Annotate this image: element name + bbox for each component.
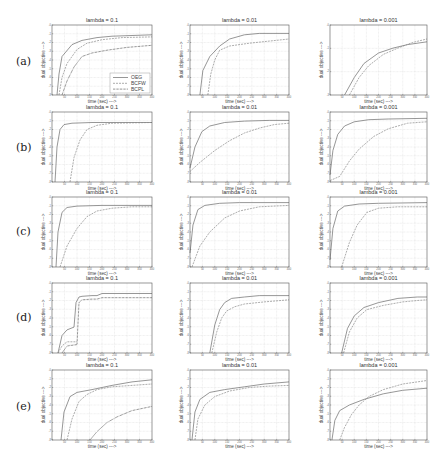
svg-text:100: 100 [75,440,80,444]
svg-text:-1: -1 [49,32,52,36]
svg-text:-8: -8 [327,265,330,269]
svg-text:-8: -8 [187,180,190,184]
svg-text:-8: -8 [327,438,330,442]
svg-text:-0: -0 [187,281,190,285]
svg-text:-3: -3 [187,221,190,225]
svg-text:-5: -5 [49,239,52,243]
chart-panel-c3: lambda = 0.00150100150200250300350400-0-… [318,185,431,279]
svg-text:-2: -2 [49,40,52,44]
svg-text:-2: -2 [327,212,330,216]
svg-text:-5: -5 [187,239,190,243]
svg-text:400: 400 [425,440,430,444]
svg-text:-2: -2 [187,212,190,216]
svg-text:-4: -4 [49,58,52,62]
svg-text:-2: -2 [327,127,330,131]
svg-text:-6: -6 [49,420,52,424]
panel-title: lambda = 0.001 [359,275,397,281]
series-bcfw-line [344,300,427,353]
svg-text:350: 350 [413,440,418,444]
svg-text:50: 50 [63,353,66,357]
svg-text:-8: -8 [187,93,190,97]
svg-text:-1: -1 [327,290,330,294]
svg-text:-0: -0 [187,110,190,114]
svg-text:100: 100 [75,353,80,357]
svg-text:-7: -7 [327,171,330,175]
svg-text:-2: -2 [187,40,190,44]
svg-text:-6: -6 [327,162,330,166]
y-axis-label: dual objective ---> [179,386,184,423]
svg-text:-6: -6 [187,333,190,337]
svg-text:-5: -5 [327,154,330,158]
svg-text:300: 300 [262,353,267,357]
svg-text:-1: -1 [49,290,52,294]
svg-text:-3: -3 [187,49,190,53]
svg-text:-1: -1 [327,46,330,50]
svg-text:300: 300 [262,95,267,99]
svg-text:-3: -3 [49,394,52,398]
svg-text:-0: -0 [49,368,52,372]
svg-text:-3: -3 [187,136,190,140]
svg-text:-4: -4 [327,403,330,407]
svg-text:-8: -8 [327,351,330,355]
svg-text:100: 100 [213,95,218,99]
svg-text:-3: -3 [187,394,190,398]
svg-text:350: 350 [137,353,142,357]
svg-text:-7: -7 [187,256,190,260]
panel-title: lambda = 0.1 [86,104,118,110]
svg-text:-4: -4 [49,230,52,234]
panel-title: lambda = 0.001 [359,189,397,195]
svg-text:-4: -4 [187,316,190,320]
svg-text:100: 100 [352,95,357,99]
svg-text:300: 300 [125,440,130,444]
chart-panel-e3: lambda = 0.00150100150200250300350400-0-… [318,358,431,452]
svg-text:300: 300 [125,95,130,99]
chart-panel-d3: lambda = 0.00150100150200250300350400-0-… [318,271,431,365]
row-label-e: (e) [16,400,31,413]
svg-text:-8: -8 [187,438,190,442]
svg-text:-0: -0 [327,23,330,27]
svg-text:400: 400 [150,353,155,357]
svg-text:-7: -7 [187,342,190,346]
svg-text:-1: -1 [187,32,190,36]
chart-panel-e1: lambda = 0.150100150200250300350400-0-1-… [40,358,156,452]
legend-label-bcpl: BCPL [131,86,144,92]
chart-panel-a2: lambda = 0.0150100150200250300350400-0-1… [178,13,293,107]
chart-panel-d2: lambda = 0.0150100150200250300350400-0-1… [178,271,293,365]
svg-text:100: 100 [213,353,218,357]
svg-text:-0: -0 [327,368,330,372]
svg-text:-8: -8 [187,351,190,355]
x-axis-label: time (sec) ---> [225,444,254,449]
svg-text:-8: -8 [49,265,52,269]
svg-text:-6: -6 [327,333,330,337]
svg-text:350: 350 [413,353,418,357]
x-axis-label: time (sec) ---> [88,444,117,449]
y-axis-label: dual objective ---> [179,213,184,250]
svg-text:-3: -3 [49,221,52,225]
svg-text:-5: -5 [49,412,52,416]
svg-text:-7: -7 [49,342,52,346]
svg-text:-2: -2 [49,127,52,131]
svg-text:50: 50 [341,440,344,444]
svg-text:400: 400 [287,440,292,444]
svg-text:-3: -3 [327,307,330,311]
svg-text:300: 300 [401,440,406,444]
svg-text:-3: -3 [327,136,330,140]
panel-title: lambda = 0.01 [222,362,257,368]
y-axis-label: dual objective ---> [319,213,324,250]
chart-panel-e2: lambda = 0.0150100150200250300350400-0-1… [178,358,293,452]
svg-text:-0: -0 [187,368,190,372]
panel-title: lambda = 0.01 [222,17,257,23]
svg-text:-3: -3 [187,307,190,311]
chart-panel-c1: lambda = 0.150100150200250300350400-0-1-… [40,185,156,279]
y-axis-label: dual objective ---> [41,128,46,165]
series-bcfw-line [195,385,289,440]
panel-title: lambda = 0.001 [359,362,397,368]
panel-title: lambda = 0.1 [86,189,118,195]
y-axis-label: dual objective ---> [319,128,324,165]
svg-text:-0: -0 [187,23,190,27]
svg-text:50: 50 [63,95,66,99]
svg-text:300: 300 [401,353,406,357]
svg-text:-4: -4 [49,316,52,320]
svg-text:-1: -1 [49,119,52,123]
svg-text:-0: -0 [49,110,52,114]
